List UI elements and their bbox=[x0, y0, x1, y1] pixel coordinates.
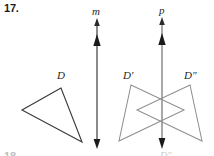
line-m-label: m bbox=[92, 5, 100, 17]
triangle-d-double-prime bbox=[137, 85, 202, 141]
line-p-arrowhead-bottom bbox=[159, 138, 166, 149]
line-p-label: p bbox=[159, 4, 165, 16]
line-m bbox=[93, 18, 100, 149]
next-problem-text: D″ bbox=[160, 150, 171, 156]
triangle-d-prime bbox=[119, 85, 184, 141]
next-problem-number: 18. bbox=[4, 150, 19, 156]
line-m-arrowhead-top bbox=[94, 18, 100, 26]
diagram-canvas: 17. m p D D′ D″ 18. D″ bbox=[0, 0, 214, 156]
geometry-figure bbox=[0, 0, 214, 156]
line-m-arrowhead-bottom bbox=[94, 139, 101, 149]
line-p-arrowhead-top bbox=[159, 17, 165, 25]
line-p-arrowhead-top-secondary bbox=[158, 33, 165, 45]
line-m-arrowhead-top-secondary bbox=[93, 34, 100, 46]
line-p bbox=[158, 17, 165, 149]
triangle-d bbox=[22, 88, 82, 142]
triangle-d-label: D bbox=[57, 69, 65, 81]
triangle-d-double-prime-label: D″ bbox=[184, 69, 197, 81]
triangle-d-prime-label: D′ bbox=[123, 69, 133, 81]
